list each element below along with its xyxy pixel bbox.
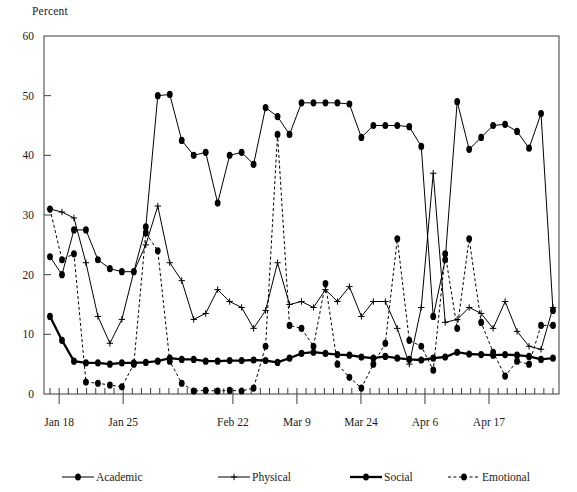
data-point-marker (358, 384, 364, 391)
legend-label: Physical (252, 471, 291, 484)
data-point-marker (418, 356, 424, 363)
legend-item-physical[interactable]: Physical (218, 471, 291, 484)
data-point-marker (287, 131, 293, 138)
data-point-marker (347, 374, 353, 381)
data-point-marker (287, 355, 293, 362)
data-point-marker (335, 361, 341, 368)
data-point-marker (382, 122, 388, 129)
data-point-marker (239, 149, 245, 156)
data-point-marker (466, 235, 472, 242)
data-point-marker (155, 247, 161, 254)
data-point-marker (538, 110, 544, 117)
data-point-marker (215, 387, 221, 394)
data-point-marker (83, 378, 89, 385)
data-point-marker (406, 123, 412, 130)
data-point-marker (251, 384, 257, 391)
data-point-marker (323, 280, 329, 287)
data-point-marker (275, 131, 281, 138)
data-point-marker (47, 205, 53, 212)
legend-item-emotional[interactable]: Emotional (448, 471, 530, 483)
y-tick-label: 20 (23, 269, 35, 281)
data-point-marker (347, 100, 353, 107)
x-tick-label: Jan 18 (44, 416, 74, 428)
data-point-marker (167, 358, 173, 365)
data-point-marker (167, 91, 173, 98)
data-point-marker (203, 387, 209, 394)
data-point-marker (478, 351, 484, 358)
data-point-marker (263, 104, 269, 111)
data-point-marker (119, 359, 125, 366)
data-point-marker (442, 250, 448, 257)
data-point-marker (382, 340, 388, 347)
data-point-marker (394, 235, 400, 242)
data-point-marker (75, 473, 81, 480)
data-point-marker (59, 256, 65, 263)
legend-item-academic[interactable]: Academic (62, 471, 143, 483)
data-point-marker (263, 343, 269, 350)
data-point-marker (358, 134, 364, 141)
data-point-marker (59, 271, 65, 278)
data-point-marker (502, 373, 508, 380)
data-point-marker (179, 137, 185, 144)
x-tick-label: Apr 17 (473, 416, 506, 429)
data-point-marker (478, 134, 484, 141)
data-point-marker (323, 350, 329, 357)
data-point-marker (71, 358, 77, 365)
line-chart: 0102030405060Jan 18Jan 25Feb 22Mar 9Mar … (0, 0, 577, 492)
data-point-marker (335, 99, 341, 106)
x-tick-label: Mar 9 (283, 416, 311, 428)
y-tick-label: 60 (23, 30, 35, 42)
data-point-marker (107, 265, 113, 272)
data-point-marker (71, 250, 77, 257)
x-tick-label: Mar 24 (344, 416, 378, 428)
data-point-marker (227, 387, 233, 394)
data-point-marker (95, 380, 101, 387)
data-point-marker (370, 361, 376, 368)
data-point-marker (538, 356, 544, 363)
data-point-marker (239, 357, 245, 364)
data-point-marker (363, 473, 369, 480)
legend-label: Emotional (482, 471, 530, 483)
data-point-marker (406, 337, 412, 344)
data-point-marker (406, 356, 412, 363)
data-point-marker (550, 322, 556, 329)
data-point-marker (47, 313, 53, 320)
data-point-marker (191, 152, 197, 159)
data-point-marker (275, 113, 281, 120)
data-point-marker (490, 349, 496, 356)
data-point-marker (251, 356, 257, 363)
data-point-marker (514, 358, 520, 365)
y-tick-label: 0 (28, 388, 34, 400)
data-point-marker (478, 319, 484, 326)
data-point-marker (394, 122, 400, 129)
data-point-marker (299, 99, 305, 106)
data-point-marker (454, 325, 460, 332)
data-point-marker (203, 149, 209, 156)
data-point-marker (466, 146, 472, 153)
data-point-marker (430, 367, 436, 374)
data-point-marker (526, 361, 532, 368)
data-point-marker (107, 361, 113, 368)
data-point-marker (119, 268, 125, 275)
x-tick-label: Feb 22 (217, 416, 249, 428)
data-point-marker (107, 381, 113, 388)
data-point-marker (454, 98, 460, 105)
data-point-marker (227, 152, 233, 159)
legend-item-social[interactable]: Social (350, 471, 413, 483)
data-point-marker (430, 355, 436, 362)
data-point-marker (538, 322, 544, 329)
data-point-marker (461, 473, 467, 480)
data-point-marker (311, 343, 317, 350)
series-line (50, 94, 553, 316)
data-point-marker (287, 322, 293, 329)
data-point-marker (418, 343, 424, 350)
data-point-marker (502, 351, 508, 358)
data-point-marker (311, 99, 317, 106)
data-point-marker (59, 337, 65, 344)
data-point-marker (490, 122, 496, 129)
y-tick-label: 40 (23, 149, 35, 161)
x-tick-label: Jan 25 (108, 416, 138, 428)
data-point-marker (227, 357, 233, 364)
data-point-marker (155, 358, 161, 365)
data-point-marker (179, 380, 185, 387)
